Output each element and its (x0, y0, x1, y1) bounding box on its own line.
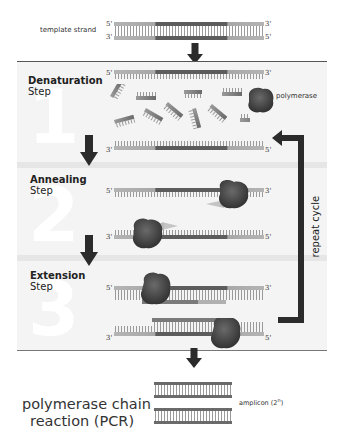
single-strand-dna (114, 141, 264, 151)
strand-end-label: 5' (265, 334, 271, 342)
step-subtitle: Step (30, 281, 85, 292)
pcr-title-line1: polymerase chain (22, 396, 151, 413)
down-arrow-icon (80, 135, 98, 167)
polymerase-label: polymerase (276, 92, 317, 100)
step-subtitle: Step (28, 86, 103, 97)
repeat-cycle-arrow-icon (272, 128, 308, 328)
amplicon-text: amplicon (2 (239, 399, 277, 407)
strand-end-label: 3' (106, 146, 112, 154)
template-dna-double-strand (114, 20, 264, 42)
extending-strand (114, 272, 264, 312)
step-heading: Annealing Step (30, 174, 87, 196)
step-heading: Extension Step (30, 270, 85, 292)
strand-end-label: 3' (106, 233, 112, 241)
down-arrow-icon (186, 348, 202, 370)
pcr-title-line2: reaction (PCR) (22, 413, 151, 430)
step-heading: Denaturation Step (28, 75, 103, 97)
step-subtitle: Step (30, 185, 87, 196)
strand-end-label: 3' (265, 187, 271, 195)
strand-end-label: 3' (265, 20, 271, 28)
primers-cluster (100, 84, 250, 140)
amplicon-close: ) (281, 399, 284, 407)
annealed-strand-with-primer (114, 214, 264, 254)
single-strand-dna (114, 70, 264, 80)
step-title: Denaturation (28, 75, 103, 86)
strand-end-label: 3' (106, 33, 112, 41)
pcr-title: polymerase chain reaction (PCR) (22, 396, 151, 430)
strand-end-label: 3' (265, 69, 271, 77)
polymerase-icon (245, 86, 275, 114)
strand-end-label: 5' (106, 20, 112, 28)
amplicon-label: amplicon (2n) (239, 397, 283, 407)
repeat-cycle-label: repeat cycle (310, 198, 321, 258)
annealed-strand-with-primer (114, 180, 264, 214)
amplicon-dna (154, 382, 232, 426)
strand-end-label: 5' (106, 69, 112, 77)
step-title: Annealing (30, 174, 87, 185)
strand-end-label: 5' (265, 33, 271, 41)
strand-end-label: 5' (106, 187, 112, 195)
template-strand-label: template strand (40, 26, 96, 34)
strand-end-label: 3' (106, 334, 112, 342)
strand-end-label: 3' (265, 284, 271, 292)
strand-end-label: 5' (106, 284, 112, 292)
step-title: Extension (30, 270, 85, 281)
strand-end-label: 5' (265, 146, 271, 154)
down-arrow-icon (80, 235, 98, 267)
strand-end-label: 5' (265, 233, 271, 241)
